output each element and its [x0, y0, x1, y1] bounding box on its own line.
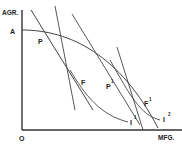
point-label-p1: P	[106, 83, 111, 90]
price-line-2	[55, 6, 75, 110]
point-label-p: P	[38, 38, 43, 45]
price-line-4	[117, 47, 143, 130]
curve-label-i1: I	[130, 119, 132, 126]
indifference-curve-i1	[70, 70, 128, 122]
origin-label: O	[19, 135, 25, 142]
y-axis-label: AGR.	[2, 9, 18, 16]
point-label-f1-sup: 1	[149, 97, 152, 102]
intercept-label-a: A	[10, 28, 15, 35]
curve-label-i2: I	[163, 116, 165, 123]
price-line-3	[72, 14, 140, 125]
point-label-f: F	[81, 79, 86, 86]
x-axis-label: MFG.	[158, 134, 174, 141]
economics-diagram: AGR. A O MFG. P F P 1 F 1 I 1 I 2	[0, 0, 182, 145]
indifference-curve-i2	[110, 60, 160, 120]
price-line-1	[31, 10, 93, 110]
curve-label-i2-sup: 2	[168, 112, 171, 117]
